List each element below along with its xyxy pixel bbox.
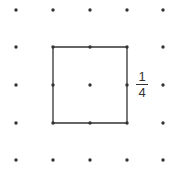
grid-dot xyxy=(88,45,91,48)
grid-dot xyxy=(14,45,17,48)
grid-dot xyxy=(14,83,17,86)
grid-dot xyxy=(14,121,17,124)
grid-dot xyxy=(125,45,128,48)
grid-dot xyxy=(161,83,164,86)
grid-dot xyxy=(88,121,91,124)
grid-dot xyxy=(51,8,54,11)
grid-dot xyxy=(14,158,17,161)
grid-dot xyxy=(125,83,128,86)
grid-dot xyxy=(51,121,54,124)
fraction-denominator: 4 xyxy=(134,86,150,99)
grid-dot xyxy=(161,45,164,48)
grid-dot xyxy=(125,8,128,11)
fraction-label: 1 4 xyxy=(134,70,150,99)
grid-dot xyxy=(88,83,91,86)
grid-dot xyxy=(14,8,17,11)
grid-dot xyxy=(51,158,54,161)
fraction-numerator: 1 xyxy=(134,70,150,83)
grid-dot xyxy=(51,83,54,86)
grid-dot xyxy=(161,121,164,124)
grid-dot xyxy=(161,158,164,161)
grid-dot xyxy=(88,8,91,11)
grid-dot xyxy=(125,121,128,124)
grid-dot xyxy=(125,158,128,161)
grid-dot xyxy=(161,8,164,11)
grid-dot xyxy=(88,158,91,161)
grid-dot xyxy=(51,45,54,48)
